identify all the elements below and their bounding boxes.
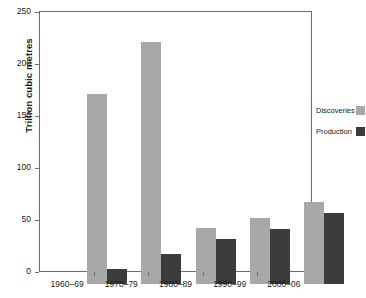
bar-discoveries-0 [87, 94, 107, 284]
y-axis-tick-label: 100 [17, 162, 31, 172]
y-axis-tick-mark [35, 272, 39, 273]
legend-item-label: Production [316, 127, 352, 136]
y-axis-title: Trillion cubic metres [23, 6, 34, 166]
plot-area [39, 11, 312, 272]
bar-production-2 [216, 239, 236, 284]
y-axis-tick-label: 0 [26, 266, 31, 276]
x-axis-tick-mark [257, 272, 258, 276]
bar-production-3 [270, 229, 290, 284]
y-axis-tick-label: 50 [22, 214, 31, 224]
y-axis-tick-label: 200 [17, 58, 31, 68]
gas-discoveries-production-bar-chart: Trillion cubic metres 050100150200250 19… [0, 0, 366, 298]
x-axis-tick-label: 1980–89 [159, 279, 192, 289]
y-axis-tick-label: 250 [17, 6, 31, 16]
legend-item-discoveries[interactable]: Discoveries [316, 104, 366, 120]
x-axis-tick-mark [203, 272, 204, 276]
legend-item-label: Discoveries [316, 106, 355, 115]
x-axis-tick-label: 1970–79 [105, 279, 138, 289]
x-axis-tick-label: 2000–06 [267, 279, 300, 289]
bar-production-4 [324, 213, 344, 284]
bars-layer [80, 24, 351, 284]
bar-discoveries-1 [141, 42, 161, 284]
legend-color-swatch [356, 127, 365, 136]
x-axis-tick-mark [148, 272, 149, 276]
legend-color-swatch [356, 106, 365, 115]
bar-discoveries-3 [250, 218, 270, 284]
bar-discoveries-4 [304, 202, 324, 284]
legend-item-production[interactable]: Production [316, 125, 366, 141]
y-axis-tick-label: 150 [17, 110, 31, 120]
bar-discoveries-2 [196, 228, 216, 284]
chart-legend: DiscoveriesProduction [316, 104, 366, 146]
x-axis-tick-mark [94, 272, 95, 276]
x-axis-tick-label: 1960–69 [51, 279, 84, 289]
x-axis-tick-label: 1990–99 [213, 279, 246, 289]
